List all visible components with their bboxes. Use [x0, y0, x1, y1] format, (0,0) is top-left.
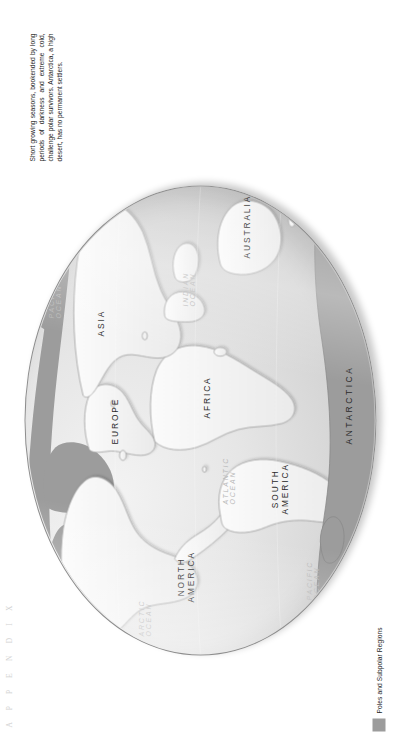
map-legend: Poles and Subpolar Regions — [372, 627, 385, 731]
world-map: NORTH AMERICA SOUTH AMERICA EUROPE AFRIC… — [24, 185, 376, 655]
map-label-africa: AFRICA — [201, 376, 211, 418]
map-label-antarctica: ANTARCTICA — [343, 365, 353, 444]
map-label-indian-ocean: INDIANOCEAN — [181, 271, 195, 306]
caption-paragraph: Short growing seasons, bookended by long… — [27, 33, 63, 161]
appendix-page: A P P E N D I X Short growing seasons, b… — [0, 0, 401, 747]
map-label-asia: ASIA — [95, 309, 105, 336]
map-label-pacific-ocean-north: PACIFICOCEAN — [47, 278, 61, 318]
map-label-australia: AUSTRALIA — [241, 194, 251, 258]
running-head-appendix: A P P E N D I X — [4, 600, 13, 727]
legend-label-poles: Poles and Subpolar Regions — [375, 627, 382, 713]
map-label-pacific-ocean-south: PACIFICOCEAN — [305, 560, 319, 600]
map-artwork — [25, 186, 375, 654]
globe-ellipse: NORTH AMERICA SOUTH AMERICA EUROPE AFRIC… — [24, 185, 376, 655]
legend-swatch-poles — [372, 718, 385, 731]
map-label-atlantic-ocean: ATLANTICOCEAN — [221, 456, 235, 504]
map-label-south-america: SOUTH AMERICA — [269, 463, 289, 514]
map-label-arctic-ocean: ARCTICOCEAN — [137, 599, 151, 636]
map-label-north-america: NORTH AMERICA — [175, 551, 195, 602]
map-label-europe: EUROPE — [109, 397, 119, 444]
